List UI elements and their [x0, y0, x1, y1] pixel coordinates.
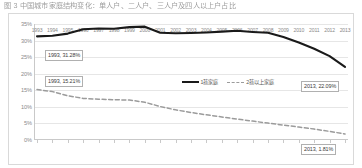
x-axis-tickmark [191, 140, 192, 143]
x-axis-tickmark [114, 140, 115, 143]
x-axis-tickmark [83, 140, 84, 143]
x-axis-tickmark [299, 140, 300, 143]
x-axis-tickmark [268, 140, 269, 143]
x-axis-tickmark [176, 140, 177, 143]
y-axis-tick-label: 35% [6, 21, 32, 27]
chart-figure: 图 3 中国城市家庭结构变化：单人户、二人户、三人户及四人以上户占比 0%5%1… [0, 0, 362, 168]
legend-entry-series-2: 2孩以上家庭 [227, 78, 273, 86]
data-label: 2013, 22.09% [301, 81, 339, 92]
data-label: 1993, 15.21% [45, 76, 83, 87]
x-axis-tickmark [160, 140, 161, 143]
x-axis-tickmark [345, 140, 346, 143]
chart-legend: 1孩家庭 2孩以上家庭 [182, 78, 274, 86]
legend-swatch-dashed-icon [227, 82, 244, 83]
x-axis-tickmark [222, 140, 223, 143]
y-axis-tick-label: 30% [6, 38, 32, 44]
legend-label-series-1: 1孩家庭 [201, 78, 219, 86]
x-axis-tickmark [37, 140, 38, 143]
x-axis-tickmark [206, 140, 207, 143]
y-axis-tick-label: 15% [6, 87, 32, 93]
plot-area: 0%5%10%15%20%25%30%35% 19931994199519961… [34, 24, 348, 140]
figure-caption: 图 3 中国城市家庭结构变化：单人户、二人户、三人户及四人以上户占比 [4, 0, 358, 11]
series-line-1 [37, 27, 345, 67]
y-axis-tick-label: 0% [6, 137, 32, 143]
x-axis-tickmark [129, 140, 130, 143]
x-axis-tickmark [145, 140, 146, 143]
y-axis-tick-label: 5% [6, 120, 32, 126]
x-axis-tickmark [330, 140, 331, 143]
y-axis-tick-label: 10% [6, 104, 32, 110]
x-axis-tickmark [253, 140, 254, 143]
y-axis-tick-label: 20% [6, 71, 32, 77]
x-axis-tickmark [68, 140, 69, 143]
data-label: 2013, 1.81% [301, 144, 336, 155]
legend-entry-series-1: 1孩家庭 [182, 78, 219, 86]
series-line-2 [37, 90, 345, 134]
x-axis-tickmark [52, 140, 53, 143]
legend-swatch-solid-icon [182, 81, 199, 83]
x-axis-tickmark [237, 140, 238, 143]
x-axis-tickmark [99, 140, 100, 143]
x-axis-tickmark [314, 140, 315, 143]
y-axis-tick-label: 25% [6, 54, 32, 60]
data-label: 1993, 31.28% [45, 50, 83, 61]
legend-label-series-2: 2孩以上家庭 [246, 78, 273, 86]
x-axis-tickmark [283, 140, 284, 143]
